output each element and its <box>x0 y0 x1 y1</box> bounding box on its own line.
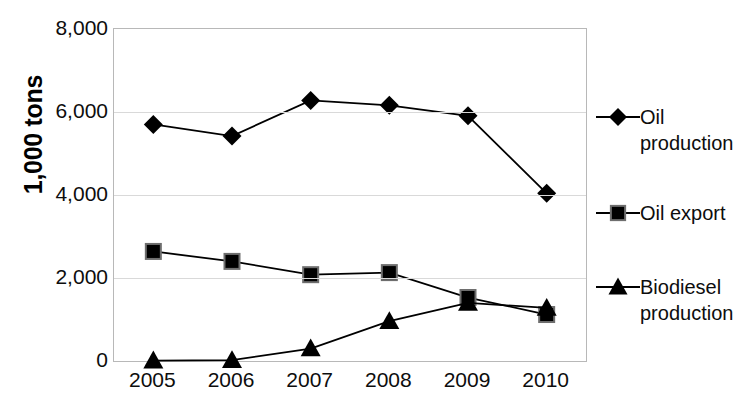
legend-entry[interactable]: Oil export <box>596 200 726 226</box>
triangle-marker-icon <box>596 275 640 299</box>
legend-label: Oil production <box>640 104 752 156</box>
legend-label: Oil export <box>640 200 726 226</box>
x-tick-label: 2005 <box>107 368 197 392</box>
legend-label: Biodiesel production <box>640 274 752 326</box>
y-axis-tick-labels: 02,0004,0006,0008,000 <box>0 0 108 419</box>
legend-entry[interactable]: Oil production <box>596 104 752 156</box>
y-tick-label: 2,000 <box>12 266 108 287</box>
x-tick-label: 2008 <box>343 368 433 392</box>
series-line <box>153 303 546 361</box>
gridline <box>114 112 586 113</box>
series-line <box>153 100 546 193</box>
data-point-marker <box>143 351 163 369</box>
series-3 <box>143 293 556 368</box>
x-tick-label: 2009 <box>422 368 512 392</box>
gridline <box>114 195 586 196</box>
gridline <box>114 278 586 279</box>
square-marker-icon <box>596 201 640 225</box>
series-2 <box>146 244 554 322</box>
y-tick-label: 8,000 <box>12 17 108 38</box>
series-line <box>153 251 546 314</box>
plot-area <box>113 28 587 362</box>
y-tick-label: 6,000 <box>12 100 108 121</box>
x-axis-tick-labels: 200520062007200820092010 <box>113 368 585 408</box>
line-chart: 1,000 tons 02,0004,0006,0008,000 2005200… <box>0 0 756 419</box>
data-point-marker <box>225 254 240 269</box>
data-point-marker <box>144 115 163 134</box>
x-tick-label: 2006 <box>186 368 276 392</box>
x-tick-label: 2007 <box>265 368 355 392</box>
data-point-marker <box>223 127 242 146</box>
series-1 <box>144 91 556 203</box>
y-tick-label: 4,000 <box>12 183 108 204</box>
diamond-marker-icon <box>596 105 640 129</box>
data-point-marker <box>301 91 320 110</box>
data-point-marker <box>146 244 161 259</box>
y-tick-label: 0 <box>12 349 108 370</box>
x-tick-label: 2010 <box>501 368 591 392</box>
data-point-marker <box>303 267 318 282</box>
legend-entry[interactable]: Biodiesel production <box>596 274 752 326</box>
data-point-marker <box>301 339 321 357</box>
